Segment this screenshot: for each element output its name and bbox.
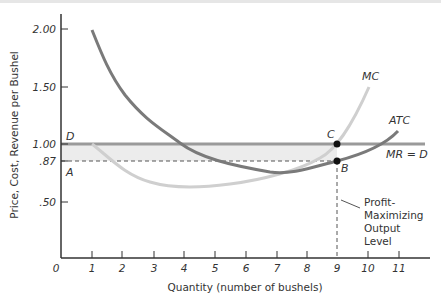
y-tick-label: 2.00 [33, 23, 57, 35]
x-tick-label: 4 [181, 262, 188, 274]
label-c: C [327, 128, 335, 141]
y-tick-label: .87 [39, 155, 56, 167]
x-axis-title: Quantity (number of bushels) [168, 281, 323, 293]
x-tick-label: 3 [151, 262, 158, 274]
x-tick-label: 8 [304, 262, 311, 274]
x-ticks [92, 251, 399, 258]
y-tick-label: 1.50 [33, 81, 57, 93]
label-b: B [341, 162, 349, 175]
annotation-line: Maximizing [364, 209, 424, 221]
x-tick-label: 0 [53, 262, 60, 274]
annotation-line: Profit- [364, 196, 395, 208]
point-b [334, 158, 341, 165]
label-mr-d: MR = D [386, 148, 428, 161]
label-a: A [65, 166, 74, 179]
label-d: D [66, 130, 74, 143]
y-axis-title: Price, Cost, Revenue per Bushel [8, 51, 20, 219]
point-c [334, 141, 341, 148]
x-tick-label: 9 [334, 262, 341, 274]
x-tick-label: 11 [392, 262, 405, 274]
y-tick-label: .50 [39, 196, 56, 208]
annotation-line: Output [364, 222, 400, 234]
cost-revenue-chart: 2.00 1.50 1.00 .87 .50 0 1 2 3 4 5 6 7 8… [0, 0, 441, 304]
x-tick-label: 5 [212, 262, 219, 274]
x-tick-label: 7 [274, 262, 281, 274]
x-tick-label: 2 [119, 262, 126, 274]
y-tick-label: 1.00 [33, 138, 57, 150]
annotation-line: Level [364, 235, 392, 247]
x-tick-label: 10 [361, 262, 375, 274]
annotation-leader [341, 200, 360, 208]
x-tick-label: 1 [89, 262, 96, 274]
label-atc: ATC [388, 114, 410, 127]
label-mc: MC [362, 70, 379, 83]
x-tick-label: 6 [243, 262, 250, 274]
